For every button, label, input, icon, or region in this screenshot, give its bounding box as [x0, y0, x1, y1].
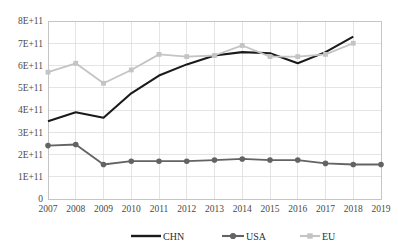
x-axis-tick-label: 2016	[288, 204, 307, 214]
data-point-marker	[46, 70, 51, 75]
line-chart: 01E+112E+113E+114E+115E+116E+117E+118E+1…	[0, 0, 398, 249]
x-axis-tick-label: 2007	[39, 204, 58, 214]
y-axis-tick-label: 5E+11	[18, 83, 43, 93]
x-axis-tick-label: 2009	[94, 204, 113, 214]
data-point-marker	[295, 157, 301, 163]
series-line-chn	[48, 37, 353, 122]
data-point-marker	[212, 157, 218, 163]
y-axis-tick-label: 7E+11	[18, 39, 43, 49]
data-point-marker	[184, 54, 189, 59]
grid-lines	[48, 21, 381, 199]
x-axis-tick-label: 2014	[233, 204, 252, 214]
y-axis-tick-label: 4E+11	[18, 105, 43, 115]
data-point-marker	[323, 52, 328, 57]
chart-canvas: 01E+112E+113E+114E+115E+116E+117E+118E+1…	[0, 0, 398, 249]
x-axis-tick-label: 2017	[316, 204, 335, 214]
legend-label-eu: EU	[322, 231, 336, 242]
legend-swatch-marker	[230, 233, 236, 239]
data-point-marker	[350, 162, 356, 168]
legend-item-chn[interactable]: CHN	[131, 231, 184, 242]
data-point-marker	[323, 161, 329, 167]
data-point-marker	[378, 162, 384, 168]
data-point-marker	[45, 143, 51, 149]
y-axis-tick-label: 1E+11	[18, 172, 43, 182]
data-point-marker	[295, 54, 300, 59]
data-point-marker	[239, 156, 245, 162]
data-point-marker	[184, 158, 190, 164]
data-point-marker	[73, 61, 78, 66]
series-line-eu	[48, 43, 353, 83]
y-axis-tick-label: 0	[38, 194, 43, 204]
x-axis-tick-label: 2011	[150, 204, 169, 214]
chart-legend: CHNUSAEU	[131, 231, 336, 242]
y-axis-tick-label: 8E+11	[18, 16, 43, 26]
x-axis-tick-labels: 2007200820092010201120122013201420152016…	[39, 204, 391, 214]
data-point-marker	[351, 41, 356, 46]
x-axis-tick-label: 2019	[372, 204, 391, 214]
legend-label-usa: USA	[246, 231, 267, 242]
data-point-marker	[101, 81, 106, 86]
x-axis-tick-label: 2013	[205, 204, 224, 214]
data-point-marker	[268, 54, 273, 59]
series-eu	[46, 41, 356, 86]
data-point-marker	[101, 162, 107, 168]
data-point-marker	[267, 157, 273, 163]
data-point-marker	[157, 52, 162, 57]
y-axis-tick-labels: 01E+112E+113E+114E+115E+116E+117E+118E+1…	[18, 16, 43, 204]
data-point-marker	[73, 142, 79, 148]
x-axis-tick-label: 2008	[66, 204, 85, 214]
data-point-marker	[156, 158, 162, 164]
x-axis-tick-label: 2018	[344, 204, 363, 214]
legend-item-eu[interactable]: EU	[300, 231, 336, 242]
y-axis-tick-label: 6E+11	[18, 61, 43, 71]
x-axis-tick-label: 2015	[261, 204, 280, 214]
x-axis-tick-label: 2010	[122, 204, 141, 214]
legend-item-usa[interactable]: USA	[222, 231, 267, 242]
series-chn	[48, 37, 353, 122]
data-point-marker	[129, 68, 134, 73]
legend-swatch-marker	[307, 233, 312, 238]
data-point-marker	[128, 158, 134, 164]
legend-label-chn: CHN	[163, 231, 184, 242]
y-axis-tick-label: 2E+11	[18, 150, 43, 160]
y-axis-tick-label: 3E+11	[18, 128, 43, 138]
x-axis-tick-label: 2012	[177, 204, 196, 214]
data-point-marker	[240, 43, 245, 48]
data-point-marker	[212, 53, 217, 58]
